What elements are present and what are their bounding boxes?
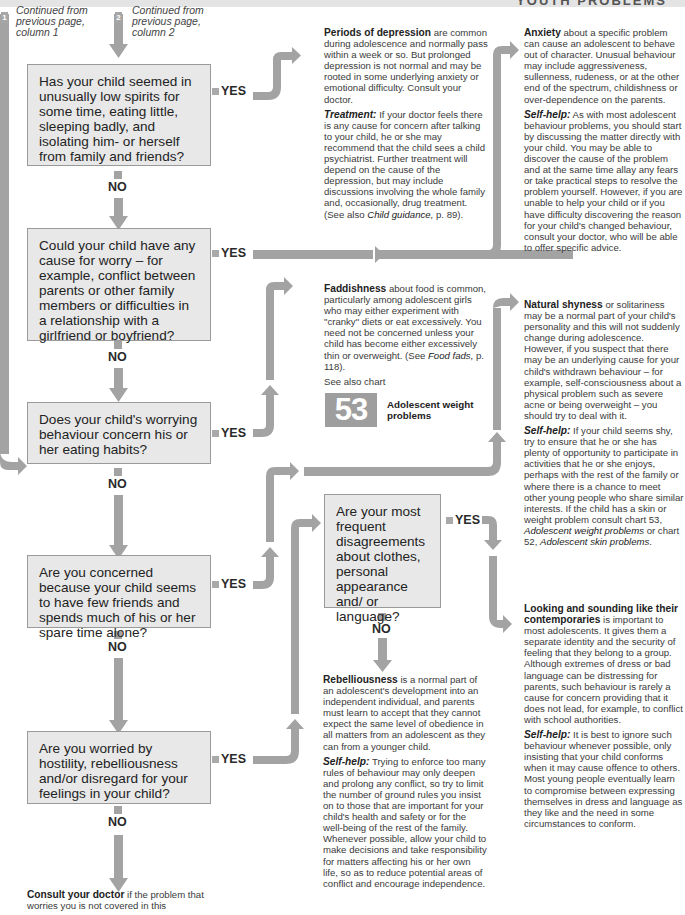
link-weight-problems[interactable]: Adolescent weight problems — [524, 525, 644, 536]
outcome-anxiety: Anxiety about a specific problem can cau… — [524, 27, 684, 257]
outcome-faddishness: Faddishness about food is common, partic… — [324, 283, 489, 391]
chart-title: Adolescent weight problems — [387, 399, 477, 421]
question-text: Could your child have any cause for worr… — [39, 238, 195, 343]
question-text: Are your most frequent disagreements abo… — [336, 504, 425, 624]
link-skin-problems[interactable]: Adolescent skin problems — [540, 536, 649, 547]
question-text: Are you worried by hostility, rebellious… — [39, 741, 188, 801]
continuation-note-2: Continued from previous page, column 2 — [132, 5, 222, 38]
question-box-eating-habits[interactable]: Does your child's worrying behaviour con… — [27, 402, 211, 464]
link-child-guidance[interactable]: Child guidance, — [367, 209, 433, 220]
outcome-rebelliousness: Rebelliousness is a normal part of an ad… — [323, 674, 488, 893]
no-label-disagreements[interactable]: NO — [372, 622, 391, 636]
no-label-eating-habits[interactable]: NO — [108, 477, 127, 491]
question-box-few-friends[interactable]: Are you concerned because your child see… — [27, 555, 211, 628]
no-label-few-friends[interactable]: NO — [108, 640, 127, 654]
question-text: Has your child seemed in unusually low s… — [39, 74, 192, 164]
question-box-low-spirits[interactable]: Has your child seemed in unusually low s… — [27, 64, 211, 166]
continuation-note-1: Continued from previous page, column 1 — [16, 5, 106, 38]
chart-reference-53[interactable]: 53 Adolescent weight problems — [325, 393, 477, 427]
no-label-hostility[interactable]: NO — [108, 815, 127, 829]
outcome-shyness: Natural shyness or solitariness may be a… — [524, 299, 684, 551]
continuation-badge-2: 2 — [115, 12, 122, 23]
yes-label-disagreements[interactable]: YES — [446, 513, 480, 527]
question-box-cause-for-worry[interactable]: Could your child have any cause for worr… — [27, 228, 211, 341]
question-text: Does your child's worrying behaviour con… — [39, 412, 197, 457]
chart-number-badge: 53 — [325, 393, 377, 427]
no-label-cause-for-worry[interactable]: NO — [108, 350, 127, 364]
link-food-fads[interactable]: Food fads, — [428, 350, 473, 361]
yes-label-few-friends[interactable]: YES — [212, 577, 246, 591]
yes-label-hostility[interactable]: YES — [212, 752, 246, 766]
continuation-badge-1: 1 — [1, 12, 8, 23]
outcome-depression: Periods of depression are common during … — [324, 27, 489, 224]
question-box-disagreements[interactable]: Are your most frequent disagreements abo… — [324, 494, 441, 608]
arrow-col1-vertical — [0, 14, 9, 454]
yes-label-low-spirits[interactable]: YES — [212, 84, 246, 98]
no-label-low-spirits[interactable]: NO — [108, 180, 127, 194]
yes-label-eating-habits[interactable]: YES — [212, 426, 246, 440]
question-box-hostility[interactable]: Are you worried by hostility, rebellious… — [27, 731, 211, 804]
yes-label-cause-for-worry[interactable]: YES — [212, 246, 246, 260]
see-also-label: See also chart — [324, 376, 489, 387]
outcome-consult-doctor: Consult your doctor if the problem that … — [27, 889, 207, 915]
outcome-contemporaries: Looking and sounding like their contempo… — [524, 603, 684, 833]
